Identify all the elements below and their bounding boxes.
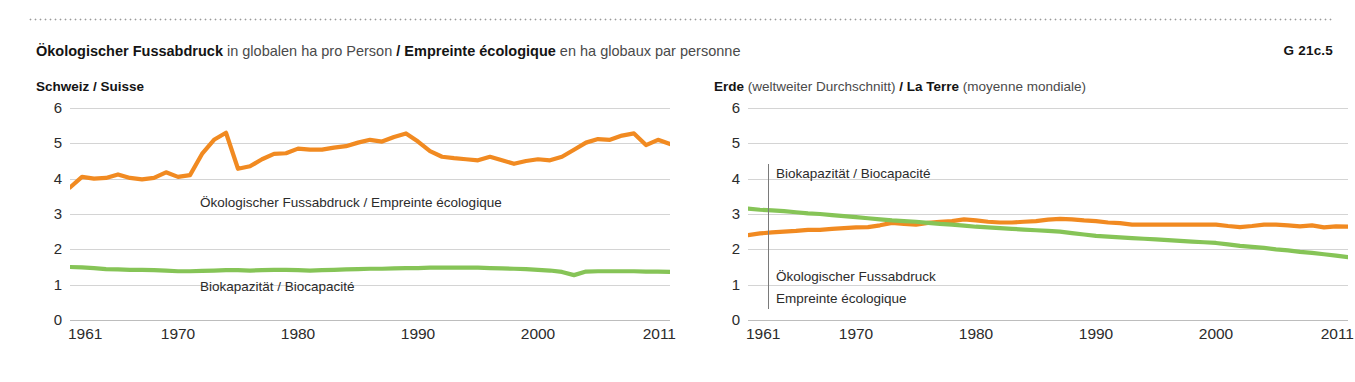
series-line-switzerland-biocapacity (70, 267, 670, 275)
subtitle-separator-left: / (89, 79, 100, 94)
x-tick-label-world-1980: 1980 (959, 324, 993, 344)
gridline-world-0 (748, 320, 1348, 321)
y-tick-label-switzerland-4: 4 (36, 172, 62, 186)
x-tick-label-switzerland-1990: 1990 (401, 324, 435, 344)
title-fr-rest: en ha globaux par personne (556, 43, 741, 59)
gridline-switzerland-0 (70, 320, 670, 321)
chart-world: 0123456 Biokapazität / Biocapacité Ökolo… (714, 108, 1354, 358)
y-axis-switzerland: 0123456 (36, 108, 62, 320)
x-tick-label-world-1990: 1990 (1079, 324, 1113, 344)
x-tick-label-switzerland-1980: 1980 (281, 324, 315, 344)
panel-subtitle-world: Erde (weltweiter Durchschnitt) / La Terr… (714, 78, 1086, 96)
y-tick-label-world-0: 0 (714, 313, 740, 327)
annotation-biocapacity-world: Biokapazität / Biocapacité (776, 165, 931, 182)
figure-number: G 21c.5 (1284, 41, 1333, 61)
subtitle-de-world: Erde (714, 79, 744, 94)
y-tick-label-switzerland-1: 1 (36, 278, 62, 292)
title-de-bold: Ökologischer Fussabdruck (36, 43, 223, 59)
y-tick-label-world-3: 3 (714, 207, 740, 221)
annotation-footprint-world-de: Ökologischer Fussabdruck (776, 268, 936, 285)
y-tick-label-world-1: 1 (714, 278, 740, 292)
y-tick-label-switzerland-0: 0 (36, 313, 62, 327)
subtitle-fr-switzerland: Suisse (101, 79, 145, 94)
x-tick-label-switzerland-1961: 1961 (68, 324, 102, 344)
annotation-footprint-world-fr: Empreinte écologique (776, 290, 907, 307)
dotted-divider (28, 18, 1333, 21)
annotation-biocapacity-switzerland: Biokapazität / Biocapacité (200, 278, 355, 295)
x-tick-label-switzerland-2000: 2000 (521, 324, 555, 344)
x-axis-world: 196119701980199020002011 (748, 324, 1348, 348)
subtitle-de-switzerland: Schweiz (36, 79, 89, 94)
line-chart-svg-world (748, 108, 1348, 320)
title-fr-bold: Empreinte écologique (404, 43, 555, 59)
x-tick-label-switzerland-2011: 2011 (643, 324, 676, 344)
x-tick-label-world-1970: 1970 (839, 324, 873, 344)
callout-leader-line (768, 164, 769, 309)
x-tick-label-world-2011: 2011 (1321, 324, 1354, 344)
figure-page: Ökologischer Fussabdruck in globalen ha … (0, 0, 1355, 382)
series-line-world-biocapacity (748, 209, 1348, 257)
chart-switzerland: 0123456 Ökologischer Fussabdruck / Empre… (36, 108, 676, 358)
subtitle-fr-world-note: (moyenne mondiale) (959, 79, 1086, 94)
y-tick-label-switzerland-3: 3 (36, 207, 62, 221)
y-tick-label-world-6: 6 (714, 101, 740, 115)
y-tick-label-switzerland-6: 6 (36, 101, 62, 115)
line-chart-svg-switzerland (70, 108, 670, 320)
y-tick-label-world-5: 5 (714, 136, 740, 150)
y-axis-world: 0123456 (714, 108, 740, 320)
plot-area-world: Biokapazität / Biocapacité Ökologischer … (748, 108, 1348, 320)
x-tick-label-switzerland-1970: 1970 (161, 324, 195, 344)
figure-title: Ökologischer Fussabdruck in globalen ha … (36, 41, 1326, 61)
y-tick-label-switzerland-2: 2 (36, 242, 62, 256)
x-tick-label-world-1961: 1961 (746, 324, 780, 344)
y-tick-label-world-2: 2 (714, 242, 740, 256)
plot-area-switzerland: Ökologischer Fussabdruck / Empreinte éco… (70, 108, 670, 320)
x-tick-label-world-2000: 2000 (1199, 324, 1233, 344)
x-axis-switzerland: 196119701980199020002011 (70, 324, 670, 348)
y-tick-label-switzerland-5: 5 (36, 136, 62, 150)
annotation-footprint-switzerland: Ökologischer Fussabdruck / Empreinte éco… (200, 194, 502, 211)
subtitle-fr-world: La Terre (907, 79, 959, 94)
subtitle-separator-right: / (899, 79, 907, 94)
series-line-switzerland-footprint (70, 133, 670, 188)
subtitle-de-world-note: (weltweiter Durchschnitt) (744, 79, 899, 94)
y-tick-label-world-4: 4 (714, 172, 740, 186)
title-de-rest: in globalen ha pro Person (223, 43, 396, 59)
panel-subtitle-switzerland: Schweiz / Suisse (36, 78, 144, 96)
